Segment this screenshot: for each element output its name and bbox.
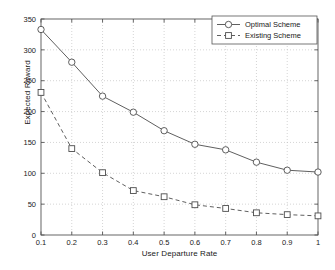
series-existing-scheme (38, 90, 321, 219)
chart-legend: Optimal SchemeExisting Scheme (212, 16, 317, 44)
figure-container: 0501001502002503003500.10.20.30.40.50.60… (0, 0, 335, 270)
svg-text:Existing Scheme: Existing Scheme (245, 31, 301, 40)
svg-text:0.9: 0.9 (282, 238, 292, 247)
svg-text:0.5: 0.5 (159, 238, 169, 247)
gridlines (41, 19, 318, 235)
axis-frame (41, 19, 318, 235)
svg-text:0.6: 0.6 (190, 238, 200, 247)
svg-text:0.4: 0.4 (128, 238, 138, 247)
svg-text:0.1: 0.1 (36, 238, 46, 247)
svg-text:0.8: 0.8 (251, 238, 261, 247)
svg-text:100: 100 (23, 169, 36, 178)
svg-text:350: 350 (23, 15, 36, 24)
svg-text:1: 1 (316, 238, 320, 247)
svg-text:0.3: 0.3 (97, 238, 107, 247)
axis-ticks: 0501001502002503003500.10.20.30.40.50.60… (23, 15, 320, 247)
data-series-layer (38, 26, 321, 218)
y-axis-label: Expected Reward (23, 33, 32, 153)
svg-text:50: 50 (28, 200, 36, 209)
chart-plot-area: 0501001502002503003500.10.20.30.40.50.60… (0, 0, 335, 270)
x-axis-label: User Departure Rate (41, 249, 318, 258)
svg-text:0.2: 0.2 (67, 238, 77, 247)
svg-text:Optimal Scheme: Optimal Scheme (245, 20, 300, 29)
series-optimal-scheme (38, 26, 321, 175)
svg-text:0.7: 0.7 (220, 238, 230, 247)
